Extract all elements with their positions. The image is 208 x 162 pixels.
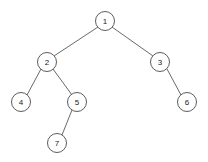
tree-edge-n5-n7: [62, 110, 72, 135]
tree-node-4: 4: [12, 93, 31, 112]
tree-node-label-2: 2: [45, 58, 50, 67]
tree-node-7: 7: [48, 134, 67, 153]
tree-edge-n3-n6: [167, 69, 181, 95]
tree-node-5: 5: [68, 93, 87, 112]
tree-edge-n2-n4: [27, 69, 41, 95]
tree-edge-n1-n2: [54, 27, 98, 56]
tree-node-label-7: 7: [55, 139, 60, 148]
tree-edges-group: [27, 27, 181, 135]
tree-node-6: 6: [178, 93, 197, 112]
tree-node-label-5: 5: [75, 98, 80, 107]
tree-node-label-1: 1: [103, 17, 108, 26]
tree-node-label-4: 4: [19, 98, 24, 107]
tree-node-1: 1: [96, 12, 115, 31]
tree-edge-n1-n3: [112, 27, 153, 56]
tree-canvas: 1234567: [0, 0, 208, 162]
tree-node-3: 3: [151, 53, 170, 72]
binary-tree-diagram: 1234567: [0, 0, 208, 162]
tree-edge-n2-n5: [53, 69, 72, 95]
tree-nodes-group: 1234567: [12, 12, 197, 153]
tree-node-label-6: 6: [185, 98, 190, 107]
tree-node-2: 2: [38, 53, 57, 72]
tree-node-label-3: 3: [158, 58, 163, 67]
